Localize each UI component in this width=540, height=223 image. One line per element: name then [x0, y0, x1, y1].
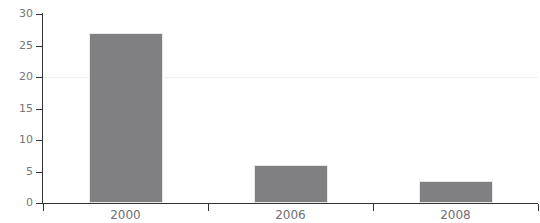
y-tick-label: 10	[0, 134, 33, 145]
y-tick-mark	[36, 46, 43, 47]
bar-2000	[89, 33, 163, 203]
bar-2008	[419, 181, 493, 203]
y-tick-label: 20	[0, 71, 33, 82]
y-tick-mark	[36, 140, 43, 141]
x-tick-label-2006: 2006	[208, 207, 373, 223]
x-tick-mark	[538, 204, 539, 211]
y-tick-mark	[36, 14, 43, 15]
x-axis-line	[43, 203, 538, 204]
x-tick-label-2008: 2008	[373, 207, 538, 223]
y-tick-label: 5	[0, 166, 33, 177]
x-tick-label-2000: 2000	[43, 207, 208, 223]
y-tick-label: 30	[0, 8, 33, 19]
bar-2006	[254, 165, 328, 203]
y-tick-mark	[36, 109, 43, 110]
bar-chart: 051015202530 200020062008	[0, 0, 540, 223]
y-tick-mark	[36, 77, 43, 78]
chart-title-cropped	[0, 0, 540, 1]
y-tick-label: 0	[0, 197, 33, 208]
y-tick-mark	[36, 172, 43, 173]
y-tick-label: 15	[0, 103, 33, 114]
y-tick-label: 25	[0, 40, 33, 51]
y-tick-mark	[36, 203, 43, 204]
